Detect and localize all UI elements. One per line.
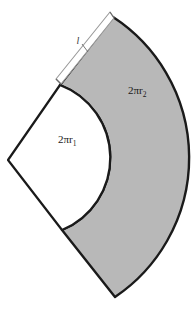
figure-root: l 2πr2 2πr1 <box>0 0 196 313</box>
inner-arc-label-main: 2πr <box>58 133 73 145</box>
slant-length-label: l <box>77 35 80 46</box>
annulus-sector-figure: l 2πr2 2πr1 <box>0 0 196 313</box>
inner-arc-label-subscript: 1 <box>73 139 77 148</box>
outer-arc-label-main: 2πr <box>128 84 143 96</box>
outer-arc-label-subscript: 2 <box>143 90 147 99</box>
